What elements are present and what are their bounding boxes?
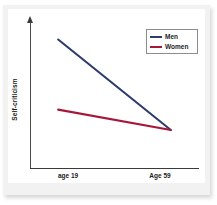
legend-item-women: Women bbox=[150, 42, 197, 52]
series-line-women bbox=[58, 110, 171, 130]
legend-swatch-men-icon bbox=[150, 36, 162, 38]
legend-swatch-women-icon bbox=[150, 46, 162, 48]
legend-label-women: Women bbox=[165, 42, 188, 52]
chart-figure: Self-criticism age 19 Age 59 Men Women bbox=[0, 0, 217, 205]
legend-label-men: Men bbox=[165, 32, 178, 42]
chart-legend: Men Women bbox=[146, 29, 198, 54]
legend-item-men: Men bbox=[150, 32, 197, 42]
